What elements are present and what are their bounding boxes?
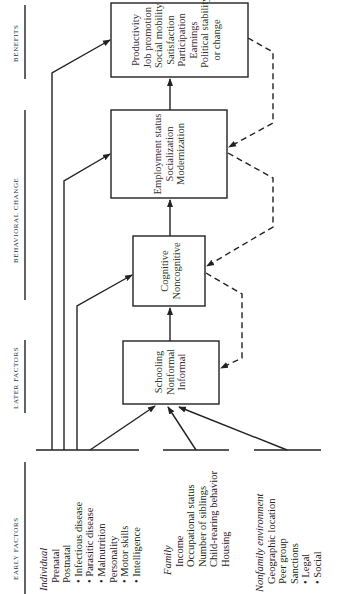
employment-item: Modernization: [175, 113, 187, 195]
nonfamily-factors: Nonfamily environment Geographic locatio…: [254, 494, 324, 592]
list-item: • Legal: [300, 494, 312, 592]
cognitive-item: Cognitive: [159, 240, 171, 302]
individual-title: Individual: [38, 502, 50, 591]
benefit-item: Participation: [176, 12, 188, 68]
list-item: • Infectious disease: [73, 502, 85, 591]
benefit-item: or change: [211, 12, 223, 68]
family-title: Family: [162, 471, 174, 575]
list-item: Number of siblings: [197, 471, 209, 575]
benefits-header: BENEFITS: [12, 25, 20, 62]
list-item: Geographic location: [266, 494, 278, 592]
employment-item: Socialization: [164, 113, 176, 195]
list-item: • Social: [312, 494, 324, 592]
schooling-item: Schooling: [153, 343, 165, 401]
list-item: Income: [174, 471, 186, 575]
schooling-item: Informal: [176, 343, 188, 401]
early-factors-header: EARLY FACTORS: [12, 517, 20, 580]
benefit-item: Earnings: [188, 12, 200, 68]
list-item: Occupational status: [185, 471, 197, 575]
list-item: Child-rearing behavior: [208, 471, 220, 575]
individual-factors: Individual Prenatal Postnatal • Infectio…: [38, 502, 142, 591]
list-item: Personality: [108, 502, 120, 591]
benefit-item: Job promotion: [142, 12, 154, 68]
list-item: • Motor skills: [119, 502, 131, 591]
list-item: Postnatal: [61, 502, 73, 591]
list-item: Sanctions: [289, 494, 301, 592]
list-item: Housing: [220, 471, 232, 575]
benefits-box: Productivity Job promotion Social mobili…: [130, 12, 222, 68]
schooling-box: Schooling Nonformal Informal: [153, 343, 188, 401]
list-item: • Intelligence: [131, 502, 143, 591]
list-item: Prenatal: [50, 502, 62, 591]
list-item: • Malnutrition: [96, 502, 108, 591]
benefit-item: Political stability: [199, 12, 211, 68]
cognitive-item: Noncognitive: [171, 240, 183, 302]
schooling-item: Nonformal: [165, 343, 177, 401]
list-item: Peer group: [277, 494, 289, 592]
later-factors-header: LATER FACTORS: [12, 347, 20, 409]
benefit-item: Social mobility: [153, 12, 165, 68]
employment-item: Employment status: [152, 113, 164, 195]
behavioral-change-header: BEHAVIORAL CHANGE: [12, 178, 20, 263]
benefit-item: Satisfaction: [165, 12, 177, 68]
list-item: • Parasitic disease: [84, 502, 96, 591]
benefit-item: Productivity: [130, 12, 142, 68]
nonfamily-title: Nonfamily environment: [254, 494, 266, 592]
employment-box: Employment status Socialization Moderniz…: [152, 113, 187, 195]
cognitive-box: Cognitive Noncognitive: [159, 240, 182, 302]
family-factors: Family Income Occupational status Number…: [162, 471, 232, 575]
